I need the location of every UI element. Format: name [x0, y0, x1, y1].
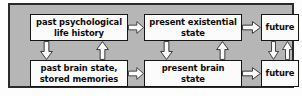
arrow-up-icon [216, 41, 229, 60]
node-present-existential-state: present existential state [144, 14, 242, 41]
arrow-down-icon [268, 41, 279, 60]
arrow-right-icon [242, 67, 261, 80]
arrow-right-icon [242, 21, 261, 34]
arrow-up-icon [282, 41, 293, 60]
node-future-top: future [261, 14, 299, 41]
node-label: past psychological life history [36, 17, 122, 37]
arrow-right-icon [128, 21, 144, 34]
node-past-brain-state-stored-memories: past brain state, stored memories [30, 60, 128, 87]
node-label: present brain state [162, 63, 225, 83]
node-label: past brain state, stored memories [40, 63, 119, 83]
node-future-bottom: future [261, 60, 299, 87]
arrow-up-icon [96, 41, 109, 60]
node-past-psychological-life-history: past psychological life history [30, 14, 128, 41]
arrow-down-icon [40, 41, 53, 60]
arrow-down-icon [160, 41, 173, 60]
node-label: future [266, 68, 295, 78]
node-present-brain-state: present brain state [144, 60, 242, 87]
node-label: future [266, 22, 295, 32]
node-label: present existential state [149, 17, 236, 37]
arrow-right-icon [128, 67, 144, 80]
diagram-canvas: past psychological life history present … [0, 0, 302, 96]
diagram-panel: past psychological life history present … [8, 3, 294, 88]
